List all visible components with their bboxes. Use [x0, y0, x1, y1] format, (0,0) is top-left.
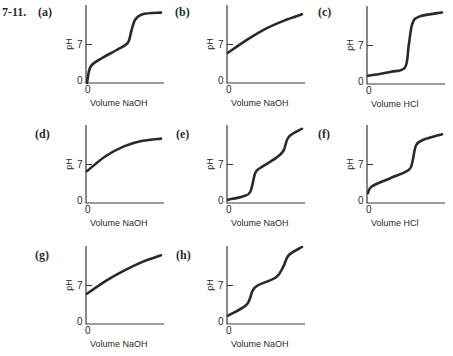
plots-canvas	[0, 0, 453, 356]
y-tick-7-label: 7	[218, 280, 224, 291]
y-tick-7-label: 7	[77, 280, 83, 291]
axes	[227, 246, 305, 324]
y-axis-label: pH	[64, 38, 74, 50]
x-axis-label: Volume HCl	[371, 99, 419, 109]
panel-label: (h)	[176, 248, 191, 263]
axes	[86, 125, 164, 203]
x-tick-0-label: 0	[226, 325, 232, 336]
titration-curve	[228, 129, 302, 200]
x-tick-0-label: 0	[85, 204, 91, 215]
y-axis-label: pH	[64, 279, 74, 291]
x-tick-0-label: 0	[366, 85, 372, 96]
y-tick-0-label: 0	[218, 75, 224, 86]
titration-curve	[368, 13, 442, 76]
y-axis-label: pH	[345, 158, 355, 170]
x-axis-label: Volume NaOH	[90, 98, 148, 108]
x-axis-label: Volume NaOH	[231, 218, 289, 228]
x-axis-label: Volume HCl	[371, 218, 419, 228]
y-axis-label: pH	[205, 158, 215, 170]
panel-label: (g)	[35, 248, 49, 263]
y-tick-0-label: 0	[218, 195, 224, 206]
x-tick-0-label: 0	[226, 204, 232, 215]
x-axis-label: Volume NaOH	[231, 98, 289, 108]
panel-label: (e)	[176, 127, 189, 142]
x-tick-0-label: 0	[226, 84, 232, 95]
y-tick-0-label: 0	[218, 316, 224, 327]
y-tick-7-label: 7	[218, 39, 224, 50]
x-axis-label: Volume NaOH	[90, 218, 148, 228]
y-tick-0-label: 0	[358, 195, 364, 206]
x-axis-label: Volume NaOH	[231, 339, 289, 349]
y-axis-label: pH	[205, 38, 215, 50]
panel-label: (a)	[38, 5, 52, 20]
y-axis-label: pH	[205, 279, 215, 291]
axes	[367, 6, 445, 84]
y-axis-label: pH	[345, 39, 355, 51]
y-tick-0-label: 0	[77, 75, 83, 86]
titration-curve	[87, 255, 161, 294]
y-tick-7-label: 7	[77, 159, 83, 170]
titration-curve	[87, 13, 161, 83]
y-tick-7-label: 7	[218, 159, 224, 170]
x-tick-0-label: 0	[85, 325, 91, 336]
panel-label: (c)	[318, 5, 331, 20]
y-tick-7-label: 7	[77, 39, 83, 50]
x-axis-label: Volume NaOH	[90, 339, 148, 349]
titration-curve	[87, 139, 161, 171]
x-tick-0-label: 0	[85, 84, 91, 95]
titration-curve	[228, 247, 302, 316]
y-axis-label: pH	[64, 158, 74, 170]
titration-curve	[368, 134, 442, 193]
y-tick-7-label: 7	[358, 159, 364, 170]
y-tick-0-label: 0	[77, 316, 83, 327]
panel-label: (d)	[35, 127, 50, 142]
y-tick-0-label: 0	[77, 195, 83, 206]
titration-curve	[228, 14, 302, 53]
y-tick-0-label: 0	[358, 76, 364, 87]
x-tick-0-label: 0	[366, 204, 372, 215]
panel-label: (b)	[175, 5, 190, 20]
panel-label: (f)	[318, 127, 330, 142]
y-tick-7-label: 7	[358, 40, 364, 51]
